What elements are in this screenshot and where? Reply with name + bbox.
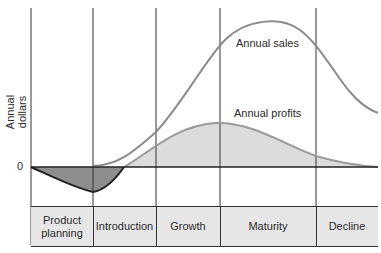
stage-introduction: Introduction <box>93 207 157 246</box>
y-axis-label: Annual dollars <box>4 82 28 142</box>
profits-annotation: Annual profits <box>234 107 301 119</box>
sales-annotation: Annual sales <box>236 37 299 49</box>
stage-product-planning: Productplanning <box>31 207 94 246</box>
stage-growth: Growth <box>156 207 221 246</box>
stage-band: Productplanning Introduction Growth Matu… <box>31 206 378 247</box>
stage-decline: Decline <box>316 207 378 246</box>
zero-tick-label: 0 <box>17 160 23 172</box>
loss-area <box>31 167 124 192</box>
stage-maturity: Maturity <box>220 207 317 246</box>
